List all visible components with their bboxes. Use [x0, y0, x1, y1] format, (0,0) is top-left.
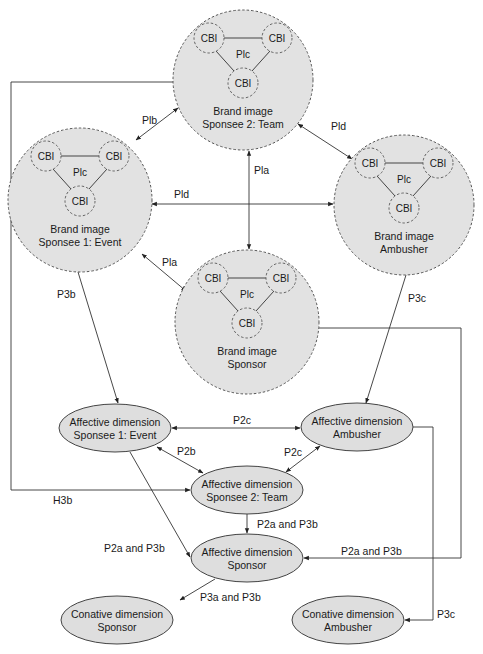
node-title: Conative dimension	[71, 608, 163, 620]
cbi-label: CBI	[396, 203, 413, 214]
node-subtitle: Ambusher	[324, 621, 372, 633]
brand-image-title: Brand image	[50, 223, 110, 235]
edge-affambusher-conambusher	[405, 427, 433, 620]
label-p2c-mid: P2c	[284, 446, 302, 458]
cbi-label: CBI	[362, 158, 379, 169]
brand-image-sponsor: CBICBICBIPlcBrand imageSponsor	[175, 250, 319, 394]
node-title: Affective dimension	[202, 546, 293, 558]
label-p2a-p3b-right: P2a and P3b	[341, 545, 402, 557]
cbi-label: CBI	[205, 273, 222, 284]
cbi-label: CBI	[239, 318, 256, 329]
node-title: Conative dimension	[302, 608, 394, 620]
brand-image-subtitle: Ambusher	[380, 243, 428, 255]
node-ellipse	[59, 404, 171, 452]
edge-ambusher-affective	[366, 275, 406, 403]
plc-label: Plc	[397, 174, 411, 185]
label-pla-diag: Pla	[162, 256, 177, 268]
brand-image-team: CBICBICBIPlcBrand imageSponsee 2: Team	[173, 10, 313, 150]
cbi-label: CBI	[273, 273, 290, 284]
node-ellipse	[191, 466, 303, 514]
label-p3a-p3b: P3a and P3b	[200, 591, 261, 603]
brand-image-title: Brand image	[213, 105, 273, 117]
brand-image-title: Brand image	[374, 230, 434, 242]
cbi-label: CBI	[72, 196, 89, 207]
brand-image-title: Brand image	[217, 345, 277, 357]
label-pld-top: Pld	[331, 120, 346, 132]
cbi-label: CBI	[106, 151, 123, 162]
label-p3b-left: P3b	[57, 288, 76, 300]
brand-image-subtitle: Sponsor	[227, 358, 267, 370]
brand-images: CBICBICBIPlcBrand imageSponsee 2: TeamCB…	[8, 10, 474, 394]
node-aff-ambusher: Affective dimensionAmbusher	[301, 403, 413, 451]
brand-image-subtitle: Sponsee 1: Event	[39, 236, 122, 248]
node-ellipse	[301, 403, 413, 451]
conceptual-model-diagram: CBICBICBIPlcBrand imageSponsee 2: TeamCB…	[0, 0, 483, 654]
label-p3c-bottom: P3c	[437, 608, 455, 620]
cbi-label: CBI	[269, 33, 286, 44]
node-con-ambusher: Conative dimensionAmbusher	[292, 596, 404, 644]
node-title: Affective dimension	[312, 415, 403, 427]
label-p3c-right: P3c	[408, 292, 426, 304]
label-pla-vert: Pla	[254, 164, 269, 176]
node-subtitle: Sponsor	[97, 621, 137, 633]
label-p2b: P2b	[177, 445, 196, 457]
node-ellipse	[191, 534, 303, 582]
node-aff-sponsor: Affective dimensionSponsor	[191, 534, 303, 582]
node-subtitle: Sponsee 2: Team	[206, 491, 288, 503]
node-title: Affective dimension	[202, 478, 293, 490]
cbi-label: CBI	[430, 158, 447, 169]
node-aff-event: Affective dimensionSponsee 1: Event	[59, 404, 171, 452]
label-pld-mid: Pld	[174, 188, 189, 200]
node-subtitle: Ambusher	[333, 428, 381, 440]
cbi-label: CBI	[235, 78, 252, 89]
plc-label: Plc	[73, 167, 87, 178]
node-ellipse	[292, 596, 404, 644]
brand-image-event: CBICBICBIPlcBrand imageSponsee 1: Event	[8, 128, 152, 272]
brand-image-ambusher: CBICBICBIPlcBrand imageAmbusher	[334, 135, 474, 275]
label-h3b: H3b	[53, 494, 72, 506]
label-p2a-p3b-center: P2a and P3b	[257, 518, 318, 530]
node-ellipse	[61, 596, 173, 644]
plc-label: Plc	[240, 289, 254, 300]
node-subtitle: Sponsor	[227, 559, 267, 571]
cbi-label: CBI	[201, 33, 218, 44]
label-plb: Plb	[142, 114, 157, 126]
edge-event-affective	[78, 272, 118, 403]
node-subtitle: Sponsee 1: Event	[74, 429, 157, 441]
node-con-sponsor: Conative dimensionSponsor	[61, 596, 173, 644]
dimension-nodes: Affective dimensionSponsee 1: EventAffec…	[59, 403, 413, 644]
brand-image-subtitle: Sponsee 2: Team	[202, 118, 284, 130]
node-title: Affective dimension	[70, 416, 161, 428]
plc-label: Plc	[236, 49, 250, 60]
label-p2c-top: P2c	[233, 414, 251, 426]
node-aff-team: Affective dimensionSponsee 2: Team	[191, 466, 303, 514]
cbi-label: CBI	[38, 151, 55, 162]
label-p2a-p3b-left: P2a and P3b	[104, 542, 165, 554]
